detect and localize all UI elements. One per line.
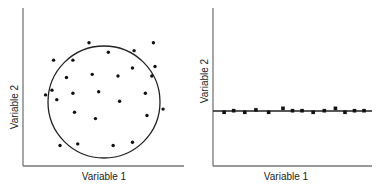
data-point (55, 98, 58, 101)
data-point (87, 41, 90, 44)
data-point (222, 110, 226, 114)
data-points (222, 107, 366, 115)
scatter-chart-circle: Variable 1 Variable 2 (0, 0, 190, 192)
x-axis-label: Variable 1 (82, 171, 127, 182)
data-point (111, 144, 114, 147)
data-point (71, 58, 74, 61)
y-axis-label: Variable 2 (9, 84, 20, 129)
data-point (254, 108, 258, 112)
data-point (118, 100, 121, 103)
data-point (116, 74, 119, 77)
data-point (76, 142, 79, 145)
data-point (145, 114, 148, 117)
data-point (243, 110, 247, 114)
data-point (153, 65, 156, 68)
data-point (73, 111, 76, 114)
data-point (144, 92, 147, 95)
data-point (97, 90, 100, 93)
data-point (161, 107, 164, 110)
scatter-chart-line: Variable 1 Variable 2 (190, 0, 383, 192)
data-point (300, 109, 304, 113)
data-point (343, 110, 347, 114)
data-point (323, 109, 327, 113)
data-point (94, 117, 97, 120)
data-point (44, 93, 47, 96)
data-point (291, 109, 295, 113)
data-point (91, 73, 94, 76)
data-point (281, 107, 285, 111)
data-point (131, 66, 134, 69)
data-point (65, 76, 68, 79)
data-point (150, 74, 153, 77)
data-point (334, 107, 338, 111)
chart-canvas-left: Variable 1 Variable 2 (0, 0, 190, 192)
data-point (58, 144, 61, 147)
enclosing-circle (48, 46, 160, 158)
x-axis-label: Variable 1 (264, 171, 309, 182)
data-point (311, 110, 315, 114)
data-point (52, 58, 55, 61)
data-point (152, 41, 155, 44)
data-point (131, 141, 134, 144)
data-point (107, 51, 110, 54)
data-point (132, 49, 135, 52)
data-point (71, 92, 74, 95)
chart-canvas-right: Variable 1 Variable 2 (190, 0, 383, 192)
data-point (267, 110, 271, 114)
data-point (232, 109, 236, 113)
data-point (50, 88, 53, 91)
data-point (362, 109, 366, 113)
data-points (44, 41, 165, 147)
y-axis-label: Variable 2 (199, 58, 210, 103)
data-point (353, 109, 357, 113)
